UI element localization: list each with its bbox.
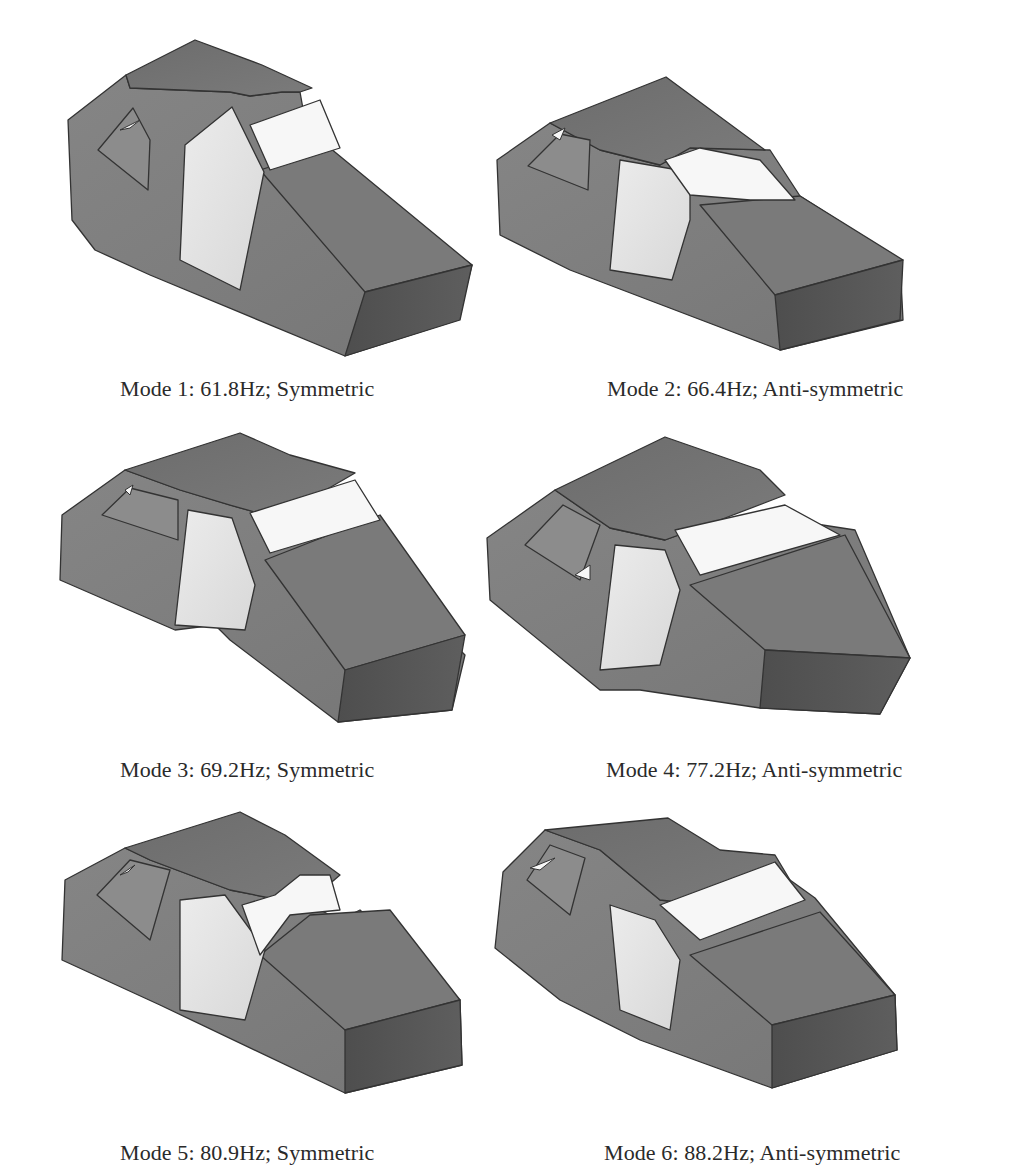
mode-caption-3: Mode 3: 69.2Hz; Symmetric bbox=[120, 757, 374, 783]
mode-panel-2 bbox=[497, 77, 903, 350]
mode-shapes-figure: Mode 1: 61.8Hz; SymmetricMode 2: 66.4Hz;… bbox=[0, 0, 1010, 1173]
car-front-face bbox=[760, 650, 910, 714]
mode-panel-5 bbox=[62, 812, 462, 1093]
mode-panel-1 bbox=[68, 40, 472, 356]
mode-panel-6 bbox=[495, 818, 897, 1088]
mode-caption-6: Mode 6: 88.2Hz; Anti-symmetric bbox=[604, 1140, 900, 1166]
mode-caption-1: Mode 1: 61.8Hz; Symmetric bbox=[120, 376, 374, 402]
car-roof-panel bbox=[126, 40, 312, 96]
mode-panel-4 bbox=[487, 437, 910, 714]
mode-panel-3 bbox=[60, 433, 465, 722]
mode-caption-2: Mode 2: 66.4Hz; Anti-symmetric bbox=[607, 376, 903, 402]
car-body-mode-shapes bbox=[0, 0, 1010, 1173]
mode-caption-5: Mode 5: 80.9Hz; Symmetric bbox=[120, 1140, 374, 1166]
mode-caption-4: Mode 4: 77.2Hz; Anti-symmetric bbox=[606, 757, 902, 783]
